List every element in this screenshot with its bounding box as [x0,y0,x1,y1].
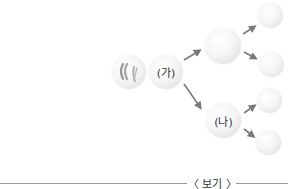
cell-ga-label: (가) [157,64,176,80]
cell-top-right-1 [258,3,283,28]
chromosome-icon [112,55,146,89]
arrow-na-to-s4 [244,129,253,136]
arrow-mid-to-s2 [244,52,255,58]
cell-bottom-right-2 [256,130,281,155]
cell-mid-top [205,28,241,64]
origin-cell [112,55,146,89]
cell-bottom-right-1 [257,88,282,113]
arrow-ga-to-na [184,84,200,107]
arrow-na-to-s3 [244,106,254,113]
arrows-layer [0,0,288,189]
bogi-section-title: 〈 보기 〉 [188,175,236,189]
cell-na-label: (나) [214,113,233,129]
arrow-mid-to-s1 [243,27,254,34]
cell-ga: (가) [149,55,183,89]
divider-left [0,183,187,184]
arrow-ga-to-mid [184,51,199,60]
cell-top-right-2 [259,52,284,77]
divider-right [236,183,288,184]
cell-na: (나) [206,103,241,138]
